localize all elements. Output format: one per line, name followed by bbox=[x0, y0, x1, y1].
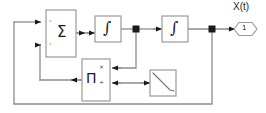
product-multiply-sign: × bbox=[99, 64, 104, 70]
sum-block-label: Σ bbox=[57, 25, 66, 40]
diagram-vector-layer bbox=[0, 0, 266, 113]
block-diagram-canvas: Σ - - ∫ ∫ Π × ÷ X(t) 1 bbox=[0, 0, 266, 113]
junction-dot-2 bbox=[209, 26, 216, 33]
product-block-label: Π bbox=[86, 71, 97, 85]
product-divide-sign: ÷ bbox=[99, 79, 104, 85]
output-signal-label: X(t) bbox=[233, 2, 249, 12]
sum-input-sign-bottom: - bbox=[49, 41, 52, 48]
sum-input-sign-top: - bbox=[49, 18, 52, 25]
junction-dot-1 bbox=[133, 26, 140, 33]
integrator-1-label: ∫ bbox=[103, 20, 111, 36]
output-port-number: 1 bbox=[242, 24, 246, 32]
integrator-2-label: ∫ bbox=[170, 20, 178, 36]
